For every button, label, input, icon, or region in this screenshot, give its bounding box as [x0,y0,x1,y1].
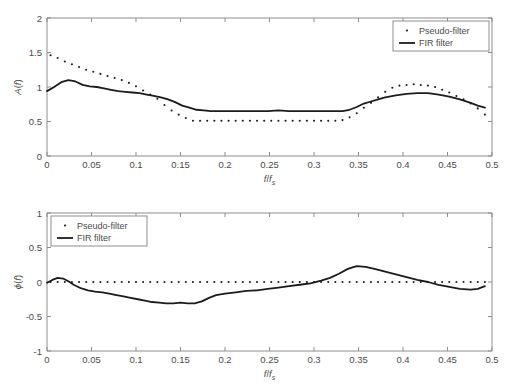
y-tick-label: 1 [37,208,42,219]
y-tick-label: 0 [37,277,42,288]
magnitude-response-plot: 00.050.10.150.20.250.30.350.40.450.500.5… [0,0,512,194]
x-tick-label: 0.45 [438,159,457,170]
legend: Pseudo-filterFIR filter [393,21,489,51]
x-tick-label: 0 [44,354,49,365]
y-tick-label: 0 [37,151,42,162]
x-tick-label: 0 [44,159,49,170]
x-tick-label: 0.3 [307,354,320,365]
y-tick-label: -1 [34,346,42,357]
x-tick-label: 0.5 [485,159,498,170]
legend: Pseudo-filterFIR filter [51,216,147,246]
x-tick-label: 0.05 [82,159,101,170]
x-tick-label: 0.2 [218,354,231,365]
legend-marker-pseudo-filter [406,29,408,31]
x-tick-label: 0.2 [218,159,231,170]
y-tick-label: 0.5 [29,116,42,127]
x-tick-label: 0.25 [260,159,279,170]
legend-label-fir-filter: FIR filter [77,233,111,243]
legend-label-fir-filter: FIR filter [419,38,453,48]
x-tick-label: 0.35 [349,159,368,170]
legend-label-pseudo-filter: Pseudo-filter [77,221,128,231]
x-tick-label: 0.35 [349,354,368,365]
y-tick-label: 1.5 [29,47,42,58]
x-tick-label: 0.05 [82,354,101,365]
x-tick-label: 0.15 [171,354,190,365]
y-tick-label: -0.5 [26,311,42,322]
phase-response-plot: 00.050.10.150.20.250.30.350.40.450.5-1-0… [0,193,512,387]
x-tick-label: 0.4 [396,159,409,170]
series-line-fir [47,266,485,303]
x-tick-label: 0.5 [485,354,498,365]
y-tick-label: 1 [37,82,42,93]
x-tick-label: 0.25 [260,354,279,365]
x-tick-label: 0.3 [307,159,320,170]
x-axis-label: f/fs [264,173,276,186]
x-tick-label: 0.45 [438,354,457,365]
x-axis-label: f/fs [264,368,276,381]
x-tick-label: 0.1 [129,354,142,365]
y-axis-label: A(f) [12,79,23,95]
figure-container: 00.050.10.150.20.250.30.350.40.450.500.5… [0,0,512,387]
x-tick-label: 0.4 [396,354,409,365]
y-tick-label: 0.5 [29,242,42,253]
x-tick-label: 0.15 [171,159,190,170]
y-axis-label: ϕ(f) [12,275,23,289]
magnitude-response-panel: 00.050.10.150.20.250.30.350.40.450.500.5… [0,0,512,194]
x-tick-label: 0.1 [129,159,142,170]
series-line-fir [47,80,485,111]
legend-marker-pseudo-filter [64,224,66,226]
legend-label-pseudo-filter: Pseudo-filter [419,26,470,36]
phase-response-panel: 00.050.10.150.20.250.30.350.40.450.5-1-0… [0,193,512,387]
y-tick-label: 2 [37,13,42,24]
